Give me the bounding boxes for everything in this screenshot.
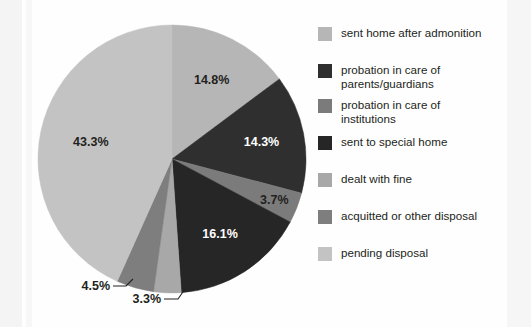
legend-item-label: sent home after admonition bbox=[341, 26, 482, 40]
pie-slice-value-label: 16.1% bbox=[202, 227, 237, 241]
legend-item[interactable]: probation in care of institutions bbox=[318, 98, 528, 125]
pie-chart-figure: 14.8%14.3%3.7%16.1%43.3%4.5%3.3% sent ho… bbox=[0, 0, 531, 327]
pie-plot-area: 14.8%14.3%3.7%16.1%43.3%4.5%3.3% bbox=[0, 0, 320, 327]
pie-slice-value-label: 43.3% bbox=[73, 135, 108, 149]
pie-slice-value-label: 3.7% bbox=[260, 193, 289, 207]
legend-item-label: pending disposal bbox=[341, 246, 428, 260]
pie-svg: 14.8%14.3%3.7%16.1%43.3%4.5%3.3% bbox=[0, 0, 320, 327]
legend-item-label: sent to special home bbox=[341, 135, 447, 149]
legend-color-swatch bbox=[318, 136, 332, 150]
legend-item[interactable]: sent home after admonition bbox=[318, 26, 528, 41]
legend-item[interactable]: dealt with fine bbox=[318, 172, 528, 187]
pie-slices-group bbox=[38, 25, 306, 293]
legend-color-swatch bbox=[318, 64, 332, 78]
legend-color-swatch bbox=[318, 173, 332, 187]
legend-item-label: dealt with fine bbox=[341, 172, 412, 186]
legend-item[interactable]: probation in care of parents/guardians bbox=[318, 63, 528, 90]
legend-color-swatch bbox=[318, 99, 332, 113]
legend-color-swatch bbox=[318, 27, 332, 41]
legend-item[interactable]: sent to special home bbox=[318, 135, 528, 150]
callout-label-dealt-with-fine: 3.3% bbox=[133, 292, 162, 306]
legend-item-label: probation in care of parents/guardians bbox=[341, 63, 440, 90]
pie-slice-value-label: 14.3% bbox=[244, 135, 279, 149]
legend-item-label: acquitted or other disposal bbox=[341, 209, 477, 223]
callout-label-acquitted: 4.5% bbox=[82, 279, 111, 293]
legend-color-swatch bbox=[318, 247, 332, 261]
legend: sent home after admonitionprobation in c… bbox=[318, 26, 528, 261]
legend-item[interactable]: pending disposal bbox=[318, 246, 528, 261]
pie-slice-value-label: 14.8% bbox=[194, 73, 229, 87]
legend-item[interactable]: acquitted or other disposal bbox=[318, 209, 528, 224]
legend-color-swatch bbox=[318, 210, 332, 224]
legend-item-label: probation in care of institutions bbox=[341, 98, 440, 125]
